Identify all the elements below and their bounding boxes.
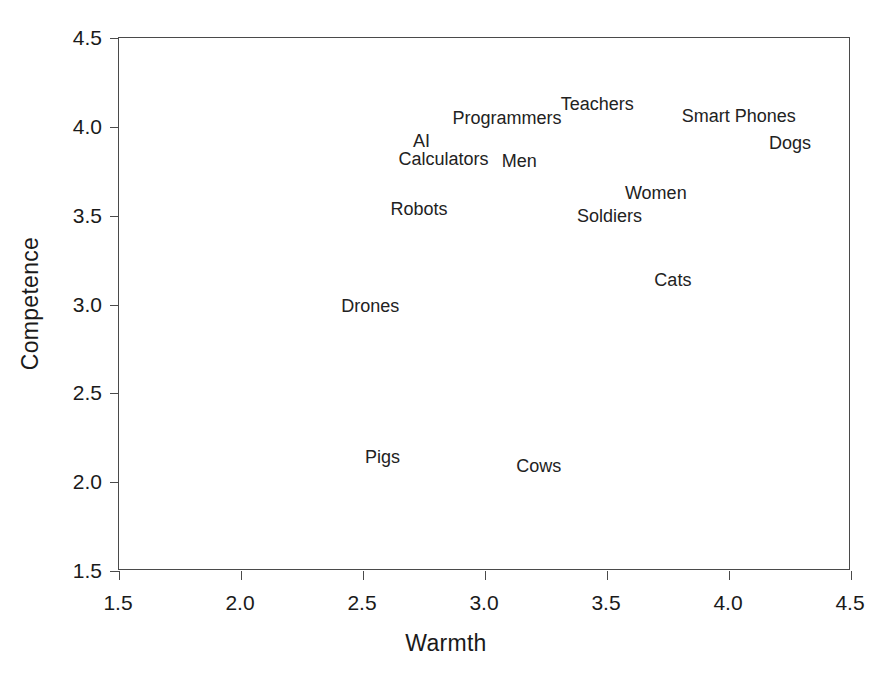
point-label-smart-phones: Smart Phones bbox=[682, 107, 796, 125]
y-tick-3.5 bbox=[110, 216, 119, 217]
y-tick-4.5 bbox=[110, 38, 119, 39]
plot-area: TeachersProgrammersSmart PhonesAIDogsCal… bbox=[118, 37, 850, 570]
scatter-plot-figure: Competence Warmth TeachersProgrammersSma… bbox=[0, 0, 892, 686]
point-label-robots: Robots bbox=[391, 200, 448, 218]
x-tick-4.0 bbox=[729, 571, 730, 580]
x-tick-2.5 bbox=[363, 571, 364, 580]
x-tick-label-2.0: 2.0 bbox=[225, 592, 254, 613]
x-tick-3.0 bbox=[485, 571, 486, 580]
point-label-cats: Cats bbox=[654, 271, 691, 289]
y-tick-label-1.5: 1.5 bbox=[73, 560, 102, 581]
point-label-soldiers: Soldiers bbox=[577, 207, 642, 225]
point-label-dogs: Dogs bbox=[769, 134, 811, 152]
x-tick-1.5 bbox=[119, 571, 120, 580]
x-tick-label-2.5: 2.5 bbox=[347, 592, 376, 613]
y-tick-3.0 bbox=[110, 305, 119, 306]
x-tick-2.0 bbox=[241, 571, 242, 580]
y-tick-4.0 bbox=[110, 127, 119, 128]
point-label-women: Women bbox=[625, 184, 687, 202]
y-tick-label-3.0: 3.0 bbox=[73, 293, 102, 314]
x-tick-label-3.5: 3.5 bbox=[591, 592, 620, 613]
y-tick-label-4.5: 4.5 bbox=[73, 27, 102, 48]
y-tick-label-3.5: 3.5 bbox=[73, 204, 102, 225]
point-label-men: Men bbox=[502, 152, 537, 170]
y-tick-label-4.0: 4.0 bbox=[73, 115, 102, 136]
point-label-cows: Cows bbox=[516, 457, 561, 475]
y-tick-label-2.5: 2.5 bbox=[73, 382, 102, 403]
y-tick-2.5 bbox=[110, 393, 119, 394]
x-tick-4.5 bbox=[851, 571, 852, 580]
x-tick-label-3.0: 3.0 bbox=[469, 592, 498, 613]
x-tick-3.5 bbox=[607, 571, 608, 580]
x-tick-label-1.5: 1.5 bbox=[103, 592, 132, 613]
y-tick-2.0 bbox=[110, 482, 119, 483]
point-label-programmers: Programmers bbox=[452, 109, 561, 127]
y-tick-1.5 bbox=[110, 571, 119, 572]
x-tick-label-4.0: 4.0 bbox=[713, 592, 742, 613]
point-label-drones: Drones bbox=[341, 297, 399, 315]
y-tick-label-2.0: 2.0 bbox=[73, 471, 102, 492]
y-axis-title: Competence bbox=[12, 37, 49, 570]
x-axis-title: Warmth bbox=[0, 630, 892, 657]
x-tick-label-4.5: 4.5 bbox=[835, 592, 864, 613]
point-label-ai: AI bbox=[413, 132, 430, 150]
point-label-calculators: Calculators bbox=[398, 150, 488, 168]
point-label-teachers: Teachers bbox=[561, 95, 634, 113]
point-label-pigs: Pigs bbox=[365, 448, 400, 466]
